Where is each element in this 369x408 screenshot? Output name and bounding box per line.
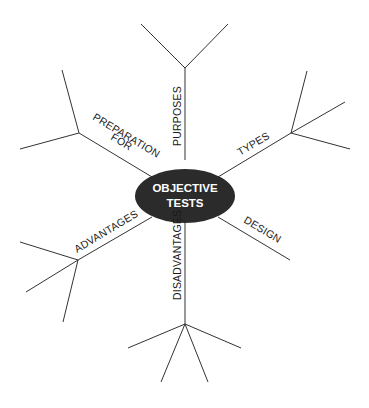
branch-purposes-lines: [141, 24, 228, 160]
label-advantages: ADVANTAGES: [72, 207, 140, 254]
center-node: OBJECTIVE TESTS: [135, 169, 235, 223]
label-types: TYPES: [235, 129, 272, 158]
center-label-line1: OBJECTIVE: [152, 182, 218, 194]
label-design: DESIGN: [242, 213, 284, 245]
branch-disadvantages-lines: [128, 222, 241, 382]
label-disadvantages: DISADVANTAGES: [171, 210, 183, 300]
branch-advantages-lines: [20, 217, 152, 322]
branch-preparation-lines: [20, 70, 152, 177]
label-preparation-line1: PREPARATION: [91, 110, 162, 159]
mind-map-diagram: OBJECTIVE TESTS PURPOSES TYPES DESIGN DI…: [0, 0, 369, 408]
branch-types-lines: [218, 71, 350, 177]
label-purposes: PURPOSES: [171, 86, 183, 146]
center-label-line2: TESTS: [166, 197, 203, 209]
